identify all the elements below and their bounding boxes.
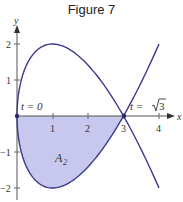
parametric-plot: x y 1 2 3 4 2 1 −1 −2 t = 0 t = 3 A 2 [0, 0, 183, 202]
y-axis-label: y [13, 15, 19, 26]
area-label-sub: 2 [63, 158, 67, 167]
x-tick-3: 3 [121, 123, 126, 134]
label-t0: t = 0 [21, 100, 43, 112]
label-t-sqrt3-prefix: t = [130, 100, 143, 112]
y-tick-minus-2: −2 [0, 183, 11, 194]
point-t0 [15, 114, 19, 118]
area-label-a: A [54, 151, 63, 165]
y-tick-minus-1: −1 [0, 147, 11, 158]
x-tick-2: 2 [85, 123, 90, 134]
y-tick-1: 1 [6, 75, 11, 86]
x-axis-label: x [176, 111, 182, 122]
y-tick-2: 2 [6, 39, 11, 50]
y-axis-arrow-icon [14, 25, 20, 33]
x-axis-arrow-icon [167, 113, 175, 119]
x-tick-1: 1 [50, 123, 55, 134]
point-t-sqrt3 [122, 114, 126, 118]
label-t-sqrt3-radicand: 3 [159, 100, 165, 112]
x-tick-4: 4 [156, 123, 161, 134]
